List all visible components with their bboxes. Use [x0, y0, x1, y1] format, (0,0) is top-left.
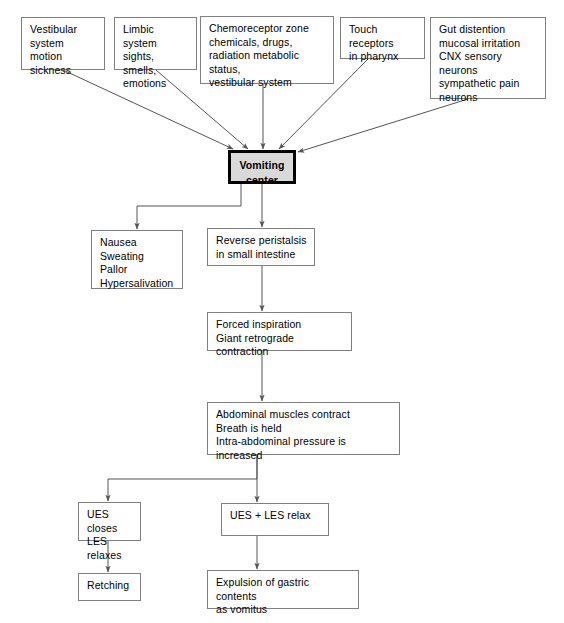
- edge-gut-to-center: [298, 99, 468, 152]
- node-vomiting-center[interactable]: Vomiting center: [228, 150, 296, 184]
- node-forced-inspiration[interactable]: Forced inspiration Giant retrograde cont…: [207, 312, 352, 351]
- edge-center-to-nausea: [137, 184, 241, 229]
- node-ues-les-relax[interactable]: UES + LES relax: [221, 503, 329, 536]
- flowchart-canvas: Vestibular system motion sickness Limbic…: [0, 0, 564, 623]
- node-abdominal-contraction[interactable]: Abdominal muscles contract Breath is hel…: [207, 402, 400, 455]
- node-vestibular-system[interactable]: Vestibular system motion sickness: [21, 17, 105, 70]
- node-nausea-symptoms[interactable]: Nausea Sweating Pallor Hypersalivation: [91, 230, 183, 289]
- node-retching[interactable]: Retching: [78, 573, 141, 601]
- node-expulsion-of-gastric-contents[interactable]: Expulsion of gastric contents as vomitus: [207, 570, 359, 609]
- node-reverse-peristalsis[interactable]: Reverse peristalsis in small intestine: [207, 228, 315, 266]
- node-gut-distention[interactable]: Gut distention mucosal irritation CNX se…: [430, 17, 546, 99]
- node-limbic-system[interactable]: Limbic system sights, smells, emotions: [114, 17, 197, 70]
- node-chemoreceptor-zone[interactable]: Chemoreceptor zone chemicals, drugs, rad…: [200, 16, 334, 84]
- node-ues-closes[interactable]: UES closes LES relaxes: [78, 502, 141, 541]
- node-touch-receptors[interactable]: Touch receptors in pharynx: [340, 17, 425, 59]
